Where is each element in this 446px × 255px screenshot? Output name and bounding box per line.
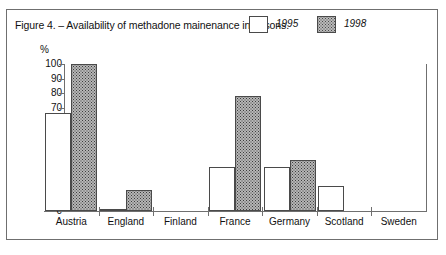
y-axis-unit-label: % bbox=[40, 44, 49, 55]
x-axis-category-label: Austria bbox=[44, 216, 99, 227]
legend-swatch-1998-icon bbox=[317, 16, 336, 33]
legend-label-1995: 1995 bbox=[276, 18, 298, 29]
bar-germany-1998 bbox=[290, 160, 316, 211]
chart-plot-area: % 1009080706050403020100 AustriaEnglandF… bbox=[7, 44, 439, 240]
figure-header: Figure 4. – Availability of methadone ma… bbox=[7, 10, 437, 44]
y-tick-mark bbox=[59, 64, 65, 65]
x-axis-category-label: Sweden bbox=[371, 216, 426, 227]
bar-england-1995 bbox=[100, 209, 126, 211]
bar-england-1998 bbox=[126, 190, 152, 211]
bar-scotland-1995 bbox=[318, 186, 344, 211]
x-axis-separator bbox=[153, 207, 154, 216]
x-axis-category-label: Scotland bbox=[317, 216, 372, 227]
figure-title: Figure 4. – Availability of methadone ma… bbox=[15, 19, 289, 31]
legend-swatch-1995-icon bbox=[249, 16, 268, 33]
bar-austria-1995 bbox=[45, 113, 71, 211]
bar-austria-1998 bbox=[71, 64, 97, 211]
bar-germany-1995 bbox=[264, 167, 290, 211]
figure-container: Figure 4. – Availability of methadone ma… bbox=[6, 9, 438, 240]
y-tick-mark bbox=[59, 79, 65, 80]
x-axis-category-label: Finland bbox=[153, 216, 208, 227]
x-axis-separator bbox=[371, 207, 372, 216]
x-axis-category-label: England bbox=[99, 216, 154, 227]
plot-right-border bbox=[426, 64, 427, 212]
bar-france-1995 bbox=[209, 167, 235, 211]
legend-label-1998: 1998 bbox=[344, 18, 366, 29]
x-axis-line bbox=[44, 211, 427, 212]
y-tick-mark bbox=[59, 211, 65, 212]
y-tick-mark bbox=[59, 93, 65, 94]
x-axis-category-label: France bbox=[208, 216, 263, 227]
y-tick-mark bbox=[59, 108, 65, 109]
bar-france-1998 bbox=[235, 96, 261, 211]
x-axis-category-label: Germany bbox=[262, 216, 317, 227]
